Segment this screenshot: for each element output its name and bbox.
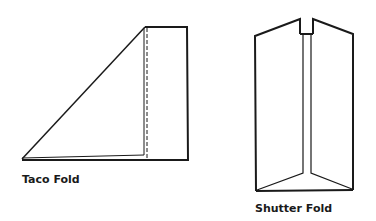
- shutter-fold-label: Shutter Fold: [255, 202, 332, 215]
- shutter-fold-figure: [255, 19, 353, 191]
- shutter-bottom-edge: [256, 190, 353, 191]
- taco-fold-rectangle: [22, 27, 188, 160]
- shutter-inner-left: [257, 34, 303, 190]
- shutter-inner-right: [311, 34, 352, 189]
- taco-fold-label: Taco Fold: [22, 173, 80, 186]
- fold-diagrams: [0, 0, 376, 221]
- taco-fold-diagonal: [22, 27, 145, 159]
- shutter-right-panel: [313, 19, 353, 190]
- taco-fold-figure: [22, 27, 188, 160]
- shutter-left-panel: [255, 19, 300, 191]
